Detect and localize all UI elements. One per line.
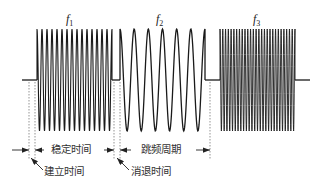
f2-sub: 2 [159, 19, 163, 28]
waveform-f1 [37, 29, 112, 131]
waveform-f3 [220, 29, 295, 131]
label-f3: f3 [253, 13, 260, 28]
label-f2: f2 [156, 13, 163, 28]
f3-sub: 3 [256, 19, 260, 28]
stable-time-label: 稳定时间 [50, 144, 92, 155]
setup-time-label: 建立时间 [43, 166, 85, 177]
label-f1: f1 [66, 13, 73, 28]
decay-time-label: 消退时间 [130, 166, 172, 177]
f1-sub: 1 [69, 19, 73, 28]
frequency-hopping-diagram [0, 0, 320, 190]
waveform-bursts [37, 29, 295, 131]
hop-period-label: 跳频周期 [140, 144, 182, 155]
waveform-f2 [120, 29, 205, 131]
